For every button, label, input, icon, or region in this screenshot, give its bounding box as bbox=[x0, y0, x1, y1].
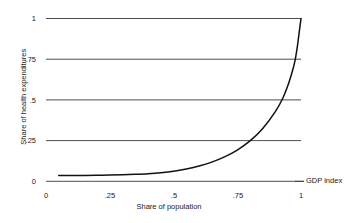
x-tick-label-05: .5 bbox=[162, 192, 186, 200]
x-tick-label-0: 0 bbox=[34, 192, 58, 200]
chart-figure: 1 .75 .5 .25 0 0 .25 .5 .75 1 Share of h… bbox=[0, 0, 349, 223]
x-axis-title: Share of population bbox=[38, 203, 300, 211]
y-axis-title: Share of health expenditures bbox=[20, 17, 28, 177]
x-tick-label-1: 1 bbox=[289, 192, 313, 200]
curve-path bbox=[59, 19, 301, 176]
plot-area bbox=[0, 0, 349, 223]
gridlines bbox=[46, 19, 301, 141]
x-tick-label-075: .75 bbox=[226, 192, 250, 200]
x-tick-label-025: .25 bbox=[98, 192, 122, 200]
series-concentration-curve bbox=[59, 19, 301, 176]
gdp-index-label: GDP index bbox=[306, 177, 342, 185]
y-tick-label-0: 0 bbox=[14, 178, 36, 186]
